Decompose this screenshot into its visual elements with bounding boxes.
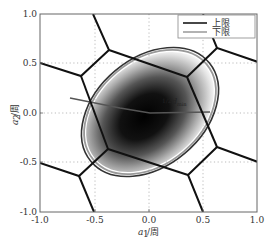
y-tick: 0.0: [23, 108, 38, 118]
y-tick-labels: -1.0 -0.5 0.0 0.5 1.0: [20, 9, 38, 217]
annotation-fraction: 1/2: [162, 97, 172, 104]
y-tick: 1.0: [23, 9, 38, 19]
x-axis-label: a 1 /周: [138, 227, 159, 239]
annotation-sub: min: [177, 101, 187, 107]
x-tick: -0.5: [86, 215, 104, 225]
x-label-unit: /周: [147, 227, 159, 237]
x-tick-labels: -1.0 -0.5 0.0 0.5 1.0: [31, 215, 264, 225]
legend-label-lower: 下限: [212, 27, 230, 37]
x-tick: 0.0: [142, 215, 157, 225]
chart: 1/2 d min -1.0 -0.5 0.0 0.5 1.0 -1.0 -0.…: [0, 0, 271, 242]
legend: 上限 下限: [178, 15, 255, 38]
y-axis-label: a 2 /周: [10, 104, 22, 125]
y-label-unit: /周: [10, 104, 20, 116]
y-tick: 0.5: [23, 58, 38, 68]
x-tick: 1.0: [250, 215, 265, 225]
y-tick: -1.0: [20, 207, 38, 217]
x-tick: 0.5: [196, 215, 211, 225]
y-tick: -0.5: [20, 157, 38, 167]
